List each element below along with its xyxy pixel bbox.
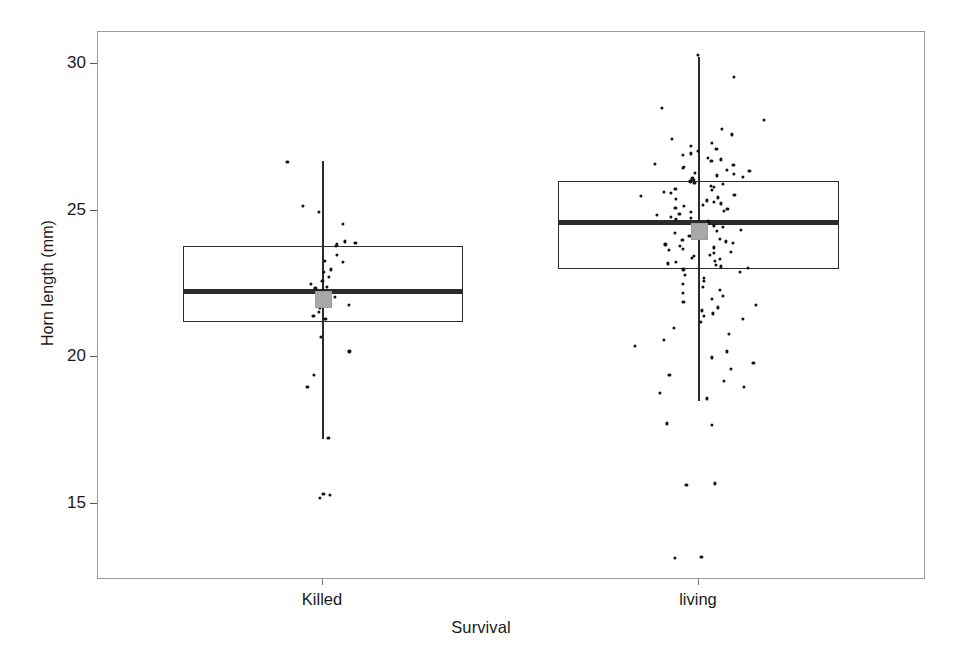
data-point [716,306,719,309]
data-point [700,309,703,312]
data-point [729,367,732,370]
data-point [685,483,688,486]
y-tick-mark-20 [90,356,97,357]
data-point [752,362,755,365]
data-point [354,241,357,244]
mean-marker-living [691,223,708,240]
data-point [712,312,715,315]
data-point [706,156,709,159]
data-point [306,385,309,388]
data-point [658,391,661,394]
data-point [318,497,321,500]
data-point [666,422,669,425]
data-point [755,303,758,306]
data-point [683,274,686,277]
plot-area [97,31,925,579]
data-point [633,344,636,347]
y-tick-label-30: 30 [46,53,86,73]
data-point [720,127,723,130]
data-point [317,211,320,214]
data-point [322,492,325,495]
x-tick-mark-living [698,579,699,585]
data-point [682,268,685,271]
data-point [699,321,702,324]
data-point [710,297,713,300]
data-point [694,171,697,174]
data-point [715,174,718,177]
data-point [732,164,735,167]
data-point [710,423,713,426]
y-tick-mark-30 [90,63,97,64]
data-point [668,373,671,376]
x-tick-label-killed: Killed [222,590,422,609]
data-point [725,168,728,171]
data-point [733,172,736,175]
data-point [742,385,745,388]
boxplot-figure: Horn length (mm) 30252015 Killedliving S… [0,0,962,659]
data-point [706,397,709,400]
data-point [313,373,316,376]
data-point [748,169,751,172]
data-point [348,350,351,353]
data-point [732,76,735,79]
data-point [702,279,705,282]
data-point [714,482,717,485]
data-point [731,133,734,136]
box-killed [183,246,463,322]
data-point [673,557,676,560]
y-tick-label-20: 20 [46,346,86,366]
data-point [762,118,765,121]
y-axis-tick-labels: 30252015 [46,0,86,659]
data-point [653,162,656,165]
x-tick-label-living: living [598,590,798,609]
data-point [671,137,674,140]
data-point [722,379,725,382]
data-point [328,494,331,497]
data-point [711,142,714,145]
data-point [682,282,685,285]
data-point [728,332,731,335]
data-point [681,291,684,294]
data-point [726,350,729,353]
y-tick-label-15: 15 [46,493,86,513]
data-point [719,158,722,161]
x-tick-mark-killed [322,579,323,585]
data-point [681,167,684,170]
data-point [741,175,744,178]
y-tick-label-25: 25 [46,200,86,220]
data-point [286,161,289,164]
data-point [663,338,666,341]
data-point [327,436,330,439]
data-point [742,318,745,321]
data-point [681,153,684,156]
data-point [689,145,692,148]
data-point [673,326,676,329]
y-tick-mark-15 [90,503,97,504]
data-point [682,300,685,303]
data-point [689,152,692,155]
data-point [703,315,706,318]
data-point [660,106,663,109]
data-point [715,147,718,150]
x-axis-title: Survival [0,618,962,637]
data-point [344,240,347,243]
data-point [702,285,705,288]
y-tick-mark-25 [90,210,97,211]
data-point [738,271,741,274]
mean-marker-killed [315,291,332,308]
data-point [710,159,713,162]
data-point [718,288,721,291]
data-point [342,222,345,225]
data-point [700,555,703,558]
data-point [721,294,724,297]
data-point [710,356,713,359]
data-point [301,205,304,208]
